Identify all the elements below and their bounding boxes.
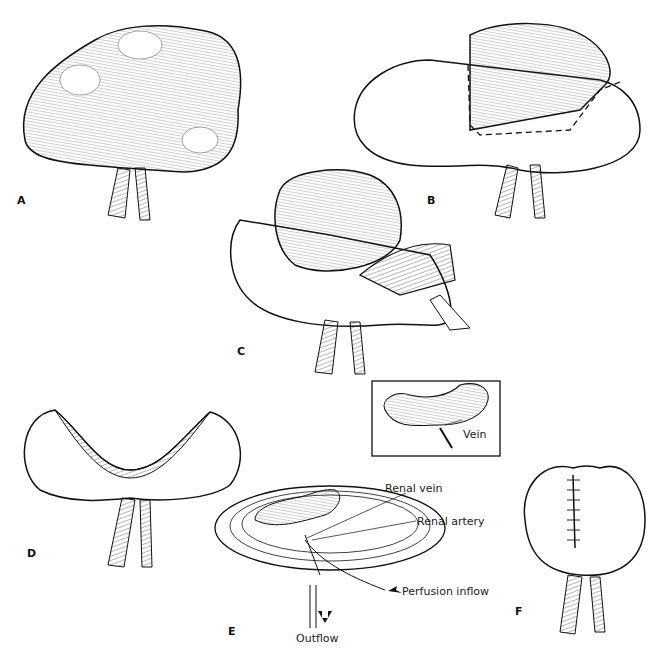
panel-label-e: E [228, 625, 236, 638]
inset-vein-label: Vein [463, 428, 486, 441]
panel-d-opened-kidney [24, 410, 240, 567]
illustration-canvas [0, 0, 662, 651]
panel-e-perfusion-dish [215, 486, 445, 628]
panel-b-kidney [354, 24, 640, 218]
renal-artery-label: Renal artery [417, 515, 485, 528]
inset-box [372, 381, 500, 456]
perfusion-inflow-label: Perfusion inflow [402, 585, 489, 598]
panel-label-a: A [17, 194, 26, 207]
panel-label-b: B [427, 194, 435, 207]
panel-a-tumor [24, 26, 241, 220]
panel-label-f: F [515, 605, 523, 618]
panel-label-c: C [237, 345, 245, 358]
panel-label-d: D [27, 547, 36, 560]
panel-f-reconstructed-kidney [524, 466, 645, 634]
renal-vein-label: Renal vein [385, 482, 443, 495]
outflow-label: Outflow [296, 632, 339, 645]
